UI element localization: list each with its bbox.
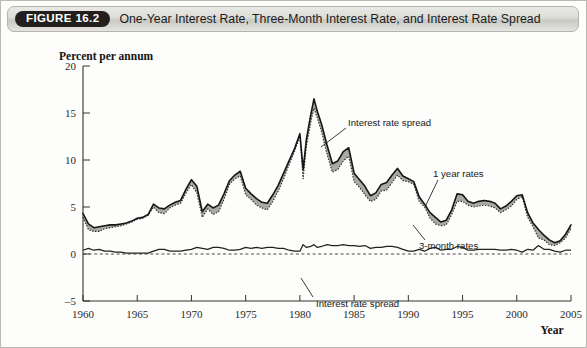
x-tick-label: 2005 (560, 308, 583, 320)
figure-title: One-Year Interest Rate, Three-Month Inte… (119, 12, 540, 26)
x-tick-label: 2000 (506, 308, 529, 320)
x-tick-label: 1960 (72, 308, 95, 320)
x-tick-label: 1975 (235, 308, 258, 320)
x-tick-label: 1985 (343, 308, 366, 320)
annotation-one-year: 1 year rates (433, 168, 484, 179)
x-tick-label: 1990 (397, 308, 420, 320)
leader-spread-lower (301, 278, 313, 297)
interest-rate-spread-band (83, 99, 571, 246)
one-year-rate-line (83, 99, 571, 243)
annotation-three-month: 3-month rates (419, 240, 478, 251)
x-tick-label: 1995 (452, 308, 475, 320)
x-axis-title: Year (541, 324, 564, 336)
y-tick-label: 0 (71, 248, 77, 260)
annotation-leader-lines (301, 128, 438, 297)
figure-container: FIGURE 16.2 One-Year Interest Rate, Thre… (0, 0, 587, 348)
x-tick-label: 1965 (126, 308, 149, 320)
x-tick-label: 1970 (180, 308, 203, 320)
y-tick-label: 5 (71, 201, 77, 213)
interest-rate-spread-line (83, 245, 571, 253)
y-tick-label: 15 (65, 107, 77, 119)
annotation-spread-lower: Interest rate spread (316, 298, 399, 309)
y-tick-label: 10 (65, 154, 77, 166)
leader-one-year (425, 180, 438, 207)
annotation-spread-upper: Interest rate spread (348, 117, 431, 128)
y-axis-ticks: –505101520 (64, 60, 90, 307)
figure-header-bar: FIGURE 16.2 One-Year Interest Rate, Thre… (7, 6, 579, 32)
leader-three-month (413, 225, 425, 240)
figure-number-badge: FIGURE 16.2 (15, 11, 110, 28)
y-tick-label: 20 (65, 60, 77, 72)
three-month-rate-line (83, 108, 571, 245)
interest-rate-chart: Percent per annum –505101520 19601965197… (1, 35, 587, 347)
x-tick-label: 1980 (289, 308, 312, 320)
y-tick-label: –5 (64, 295, 77, 307)
chart-plot-area: Percent per annum –505101520 19601965197… (1, 35, 587, 347)
